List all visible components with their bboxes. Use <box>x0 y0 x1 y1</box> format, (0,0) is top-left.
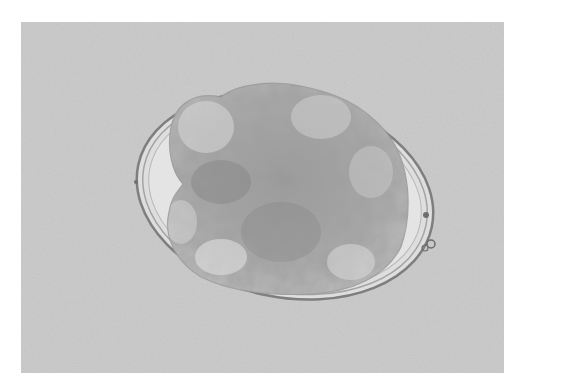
micrograph <box>21 22 504 373</box>
egg-illustration <box>21 22 504 373</box>
debris <box>423 212 429 218</box>
